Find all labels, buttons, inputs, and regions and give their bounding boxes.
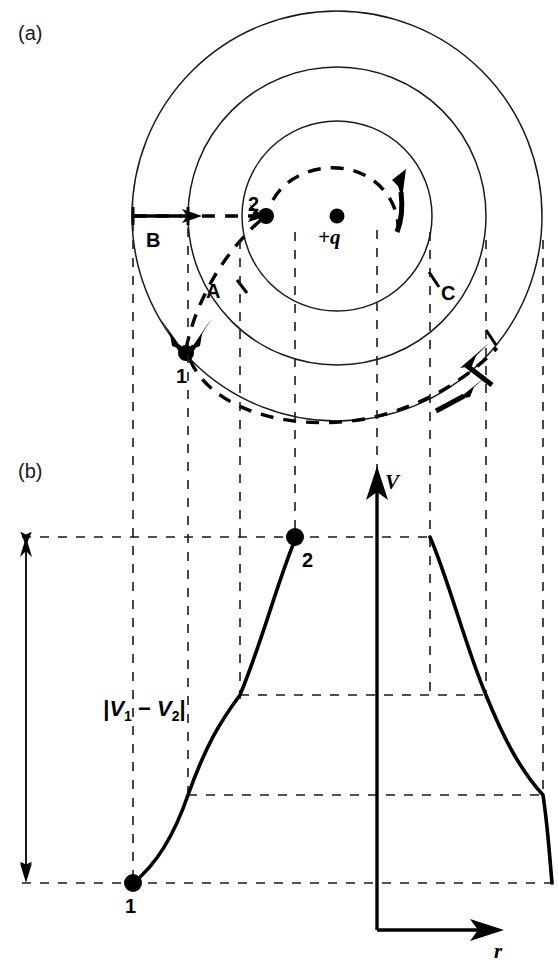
graph-point-1-dot — [124, 874, 142, 892]
point-charge-dot — [330, 209, 345, 224]
dim-minus: − — [138, 696, 151, 721]
panel-a: (a) +q 2 1 A B — [18, 11, 542, 423]
dim-sub2: 2 — [172, 708, 180, 724]
graph-point-2-label: 2 — [302, 549, 313, 571]
path-c-dashed — [190, 348, 497, 423]
graph-point-1-label: 1 — [125, 895, 136, 917]
tick-c-outer — [486, 330, 496, 345]
svg-text:|V1 − V2|: |V1 − V2| — [36, 696, 241, 724]
path-label-c: C — [441, 282, 455, 304]
charge-label: +q — [318, 225, 340, 249]
graph-point-2-dot — [286, 528, 304, 546]
v-axis-label: V — [385, 470, 401, 494]
path-c-arrow-upper — [460, 343, 489, 368]
inner-arc-tail — [397, 192, 402, 232]
dim-close-bar: | — [179, 696, 185, 721]
point-1-label: 1 — [176, 365, 187, 387]
r-axis-label: r — [494, 939, 503, 963]
path-a-dashed — [186, 219, 262, 349]
path-label-b: B — [146, 229, 160, 251]
path-c-arrow-lower-tail — [436, 396, 464, 411]
tick-a-middle — [237, 280, 247, 293]
dim-sub1: 1 — [124, 708, 132, 724]
panel-b: (b) |V1 − V2| V r — [18, 460, 552, 963]
potential-curve-right — [430, 537, 552, 883]
path-c-arrow-upper-tail — [466, 365, 492, 385]
path-label-a: A — [206, 280, 220, 302]
figure-root: (a) +q 2 1 A B — [0, 0, 558, 968]
panel-a-label: (a) — [18, 22, 42, 44]
physics-figure: (a) +q 2 1 A B — [0, 0, 558, 968]
panel-b-label: (b) — [18, 460, 42, 482]
potential-difference-label: |V1 − V2| — [36, 696, 241, 724]
